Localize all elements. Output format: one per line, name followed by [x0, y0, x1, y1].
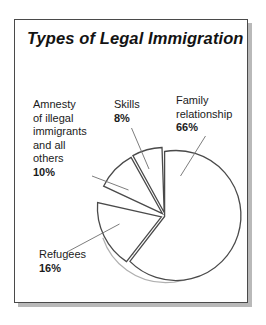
pie-label-amnesty: Amnesty of illegal immigrants and all ot…	[33, 98, 87, 180]
pie-label-amnesty-line1: Amnesty	[33, 98, 87, 112]
pie-label-family-line2: relationship	[176, 108, 232, 122]
pie-label-family-line1: Family	[176, 94, 232, 108]
chart-card: Types of Legal Immigration	[14, 19, 248, 303]
pie-label-refugees: Refugees 16%	[39, 248, 86, 275]
chart-page: Types of Legal Immigration	[0, 0, 266, 325]
pie-label-amnesty-line5: others	[33, 152, 87, 166]
pie-label-amnesty-line3: immigrants	[33, 125, 87, 139]
pie-label-amnesty-percent: 10%	[33, 166, 87, 180]
pie-label-family: Family relationship 66%	[176, 94, 232, 135]
pie-label-amnesty-line4: and all	[33, 139, 87, 153]
pie-label-skills-line1: Skills	[114, 98, 140, 112]
pie-label-refugees-percent: 16%	[39, 262, 86, 276]
pie-label-skills: Skills 8%	[114, 98, 140, 125]
pie-label-skills-percent: 8%	[114, 112, 140, 126]
pie-label-amnesty-line2: of illegal	[33, 112, 87, 126]
pie-label-refugees-line1: Refugees	[39, 248, 86, 262]
pie-label-family-percent: 66%	[176, 121, 232, 135]
